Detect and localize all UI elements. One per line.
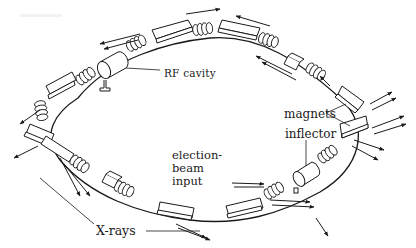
ring-drawing — [0, 0, 416, 248]
inflector-label: inflector — [285, 128, 336, 140]
rf-cavity-label: RF cavity — [164, 68, 216, 79]
beam-input-label: election-beam input — [172, 149, 232, 188]
rf-cavity-shape — [95, 52, 128, 91]
xrays-label: X-rays — [96, 225, 136, 238]
storage-ring-diagram: RF cavity magnets inflector election-bea… — [0, 0, 416, 248]
magnets-label: magnets — [284, 108, 336, 120]
